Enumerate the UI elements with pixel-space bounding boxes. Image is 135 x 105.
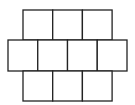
bottom-row-cell-3 (82, 71, 112, 101)
top-row-cell-1 (23, 10, 53, 40)
middle-row-cell-2 (38, 40, 68, 71)
middle-row-cell-4 (97, 40, 127, 71)
bottom-row-cell-1 (23, 71, 53, 101)
top-row-cell-3 (82, 10, 112, 40)
grid-cells (8, 10, 127, 101)
middle-row-cell-3 (68, 40, 98, 71)
bottom-row-cell-2 (53, 71, 83, 101)
top-row-cell-2 (53, 10, 83, 40)
middle-row-cell-1 (8, 40, 38, 71)
square-grid-diagram (0, 0, 135, 105)
